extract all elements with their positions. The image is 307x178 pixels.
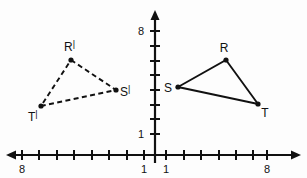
vertex-label-r-prime: R|: [64, 39, 75, 54]
coordinate-plane: 8 1 1 8 8 1 R S T: [0, 0, 307, 178]
vertex-label-s: S: [164, 81, 172, 95]
vertex-dot-r-prime: [68, 57, 73, 62]
y-axis-label-1: 1: [138, 128, 144, 140]
triangle-image-outline: [41, 60, 116, 106]
triangle-rst-outline: [178, 60, 258, 104]
prime-mark-t: |: [35, 109, 37, 119]
vertex-label-s-prime: S|: [120, 84, 130, 99]
x-axis-left-arrow-icon: [6, 151, 16, 160]
vertex-dot-t-prime: [38, 103, 43, 108]
vertex-label-r: R: [220, 41, 229, 55]
vertex-dot-r: [223, 57, 228, 62]
y-axis-up-arrow-icon: [151, 10, 160, 20]
geometry-figure: 8 1 1 8 8 1 R S T: [0, 0, 307, 178]
x-axis-label-left-8: 8: [19, 163, 25, 175]
x-axis-label-right-1: 1: [163, 163, 169, 175]
x-axis-group: 8 1 1 8: [6, 150, 301, 175]
vertex-label-t: T: [261, 106, 269, 120]
y-axis-label-8: 8: [138, 25, 144, 37]
vertex-dot-s: [175, 84, 180, 89]
vertex-dot-s-prime: [113, 87, 118, 92]
vertex-label-s-prime-letter: S: [120, 85, 128, 99]
vertex-label-r-prime-letter: R: [64, 40, 73, 54]
vertex-label-t-prime: T|: [28, 109, 38, 124]
prime-mark-s: |: [128, 84, 130, 94]
triangle-rst: R S T: [164, 41, 269, 120]
prime-mark-r: |: [73, 39, 75, 49]
vertex-dot-t: [255, 101, 260, 106]
y-axis-group: 8 1: [138, 10, 160, 163]
x-axis-label-right-8: 8: [264, 163, 270, 175]
x-axis-right-arrow-icon: [291, 151, 301, 160]
x-axis-label-left-1: 1: [141, 163, 147, 175]
triangle-r-prime-s-prime-t-prime: R| S| T|: [28, 39, 130, 124]
